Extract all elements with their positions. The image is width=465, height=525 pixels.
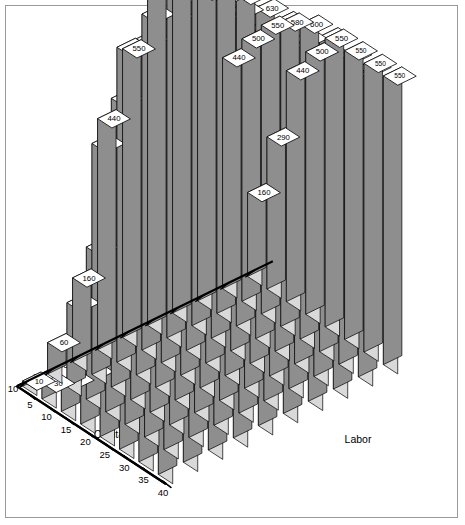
bar-face-right (198, 0, 217, 301)
capital-tick-label: 15 (61, 424, 72, 435)
bar-face-right (325, 29, 344, 327)
bar-value-label: 550 (271, 21, 285, 30)
capital-tick-label: 10 (41, 411, 52, 422)
bar-value-label: 290 (277, 133, 291, 142)
capital-tick-label: 35 (138, 474, 149, 485)
bar-value-label: 550 (394, 72, 405, 79)
bar-face-right (364, 54, 383, 352)
labor-axis-title: Labor (345, 433, 372, 445)
capital-tick-label: 20 (80, 436, 91, 447)
bar-face-right (345, 42, 364, 340)
bar-value-label: 500 (252, 34, 266, 43)
bar-value-label: 60 (60, 338, 69, 347)
bar-value-label: 10 (35, 377, 44, 386)
bar-value-label: 550 (335, 34, 349, 43)
bar-value-label: 440 (107, 114, 121, 123)
bar-value-label: 440 (232, 53, 246, 62)
bar-value-label: 160 (82, 274, 96, 283)
bar-value-label: 160 (257, 188, 271, 197)
bars-group: 5505906006006206005505004401305505906206… (23, 0, 417, 484)
capital-tick-label: 40 (158, 487, 169, 498)
labor-tick-label: 10 (8, 383, 19, 394)
capital-tick-label: 25 (100, 449, 111, 460)
bar-face-right (98, 110, 117, 350)
bar-face-right (383, 67, 402, 365)
bar-value-label: 500 (316, 47, 330, 56)
bar-value-label: 440 (296, 66, 310, 75)
chart-3d-bar: 102030405060708090100403530252015105Capi… (0, 0, 465, 525)
bar-value-label: 550 (375, 60, 386, 67)
bar-face-right (223, 49, 242, 289)
bar-face-right (123, 40, 142, 338)
bar-value-label: 550 (355, 47, 366, 54)
bar-face-right (306, 43, 325, 315)
bar-face-right (286, 62, 305, 302)
bar-face-right (173, 0, 192, 313)
capital-tick-label: 5 (27, 399, 32, 410)
bar-face-right (267, 128, 286, 289)
bar: 550 (383, 67, 416, 374)
capital-tick-label: 30 (119, 462, 130, 473)
bar-value-label: 550 (132, 44, 146, 53)
bar-value-label: 630 (266, 4, 280, 13)
chart-svg: 102030405060708090100403530252015105Capi… (0, 0, 465, 525)
